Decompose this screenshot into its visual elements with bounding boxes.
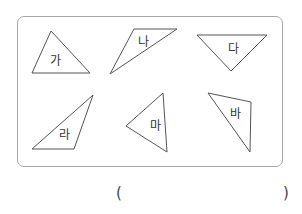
triangle-label-ma: 마 [150, 120, 161, 132]
triangle-label-da: 다 [228, 43, 239, 55]
triangle-label-na: 나 [138, 36, 149, 48]
triangle-label-ra: 라 [59, 129, 70, 141]
answer-open-paren: ( [116, 186, 122, 201]
triangle-label-ba: 바 [230, 108, 241, 120]
triangles-figure [0, 0, 302, 214]
triangle-ga [32, 31, 90, 73]
triangle-ma [126, 93, 167, 152]
answer-blank[interactable] [128, 183, 278, 205]
triangle-ba [208, 93, 251, 152]
triangle-label-ga: 가 [50, 55, 61, 67]
answer-close-paren: ) [283, 186, 289, 201]
